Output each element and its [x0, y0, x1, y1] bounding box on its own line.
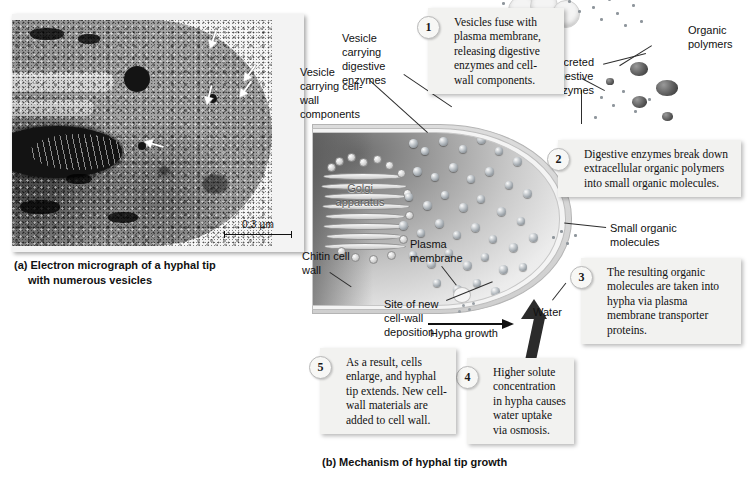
- secreted-enzyme-dot: [648, 98, 651, 101]
- small-organic-molecule: [566, 242, 569, 245]
- step-number-4: 4: [456, 366, 479, 389]
- vesicle: [417, 229, 425, 237]
- dense-clump: [30, 28, 64, 40]
- dense-clump: [108, 212, 138, 223]
- secreted-enzyme-dot: [594, 116, 597, 119]
- panel-a-caption: (a) Electron micrograph of a hyphal tip …: [14, 258, 294, 288]
- vesicle: [413, 167, 422, 176]
- vesicle: [467, 175, 475, 183]
- vesicle: [439, 137, 448, 146]
- callout-step-5: 5 As a result, cells enlarge, and hyphal…: [320, 348, 456, 434]
- secreted-enzyme-dot: [612, 104, 615, 107]
- step-text-4: Higher solute concentration in hypha cau…: [493, 366, 566, 436]
- vesicle: [409, 139, 418, 148]
- cytoplasm: [312, 132, 560, 306]
- step-text-1: Vesicles fuse with plasma membrane, rele…: [454, 16, 541, 86]
- label-plasma-membrane: Plasma membrane: [410, 238, 476, 266]
- vesicle: [485, 167, 494, 176]
- vacuole-striations: [30, 134, 126, 170]
- step-number-5: 5: [309, 356, 332, 379]
- small-organic-molecule: [552, 236, 555, 239]
- dark-organelle: [124, 66, 150, 92]
- step-text-5: As a result, cells enlarge, and hyphal t…: [346, 356, 447, 426]
- label-water: Water: [533, 306, 579, 320]
- dim-vesicle: [158, 166, 170, 176]
- panel-a-caption-line1: (a) Electron micrograph of a hyphal tip: [14, 259, 216, 271]
- panel-b-caption: (b) Mechanism of hyphal tip growth: [322, 456, 622, 468]
- organic-polymer: [630, 62, 648, 76]
- hypha-cell: [312, 124, 570, 312]
- deposition-particle: [468, 308, 471, 311]
- callout-step-1: 1 Vesicles fuse with plasma membrane, re…: [428, 8, 564, 94]
- label-chitin-cell-wall: Chitin cell wall: [302, 250, 364, 278]
- vesicle: [477, 195, 485, 203]
- organic-polymer: [656, 80, 678, 96]
- dim-organelle: [202, 174, 228, 194]
- step-number-2: 2: [547, 148, 570, 171]
- organic-polymer: [632, 96, 647, 108]
- callout-step-2: 2 Digestive enzymes break down extracell…: [558, 140, 741, 197]
- vesicle: [491, 287, 500, 296]
- callout-step-4: 4 Higher solute concentration in hypha c…: [467, 358, 574, 444]
- vesicle: [529, 233, 538, 242]
- deposition-particle: [462, 304, 465, 307]
- vesicle: [481, 253, 489, 261]
- step-number-3: 3: [570, 266, 593, 289]
- vesicle: [505, 181, 513, 189]
- vesicle: [435, 219, 444, 228]
- vesicle: [513, 157, 522, 166]
- secreted-enzyme-dot: [622, 90, 625, 93]
- panel-a-caption-line2: with numerous vesicles: [14, 273, 294, 288]
- vesicle: [441, 191, 449, 199]
- scale-bar: 0.3 µm: [222, 219, 294, 238]
- small-organic-molecule: [560, 230, 563, 233]
- vesicle: [459, 145, 467, 153]
- vesicle: [477, 135, 486, 144]
- micrograph-frame: 0.3 µm: [12, 14, 304, 252]
- micrograph-image: 0.3 µm: [12, 14, 304, 252]
- vesicle: [497, 207, 506, 216]
- deposition-particle: [458, 310, 461, 313]
- dense-clump: [66, 174, 92, 184]
- vesicle: [519, 263, 527, 271]
- vesicle: [433, 279, 441, 287]
- electron-micrograph-panel: 0.3 µm: [12, 14, 304, 252]
- deposition-particle: [472, 302, 475, 305]
- vesicle: [423, 201, 432, 210]
- scale-bar-line: [222, 231, 294, 238]
- dense-clump: [20, 200, 60, 214]
- vesicle: [449, 163, 458, 172]
- step-text-2: Digestive enzymes break down extracellul…: [584, 148, 728, 189]
- vesicle: [459, 203, 468, 212]
- vesicle: [523, 189, 532, 198]
- hyphal-growth-diagram: Vesicle carrying cell-wall components Ve…: [300, 0, 742, 480]
- organic-polymer: [662, 112, 673, 121]
- vesicle: [405, 193, 413, 201]
- vesicle: [471, 223, 480, 232]
- hypha-growth-arrow: [428, 318, 520, 330]
- vesicle: [517, 217, 525, 225]
- scale-bar-label: 0.3 µm: [222, 219, 294, 230]
- vesicle: [509, 243, 518, 252]
- label-small-organic-molecules: Small organic molecules: [610, 222, 706, 250]
- vesicle: [499, 265, 508, 274]
- step-number-1: 1: [417, 16, 440, 39]
- vesicle: [421, 147, 429, 155]
- vesicle: [495, 147, 503, 155]
- label-organic-polymers: Organic polymers: [688, 24, 752, 52]
- small-organic-molecule: [574, 234, 577, 237]
- callout-step-3: 3 The resulting organic molecules are ta…: [581, 258, 741, 344]
- label-vesicle-carrying-digestive: Vesicle carrying digestive enzymes: [342, 32, 404, 87]
- vesicle: [489, 235, 497, 243]
- dense-clump: [78, 34, 100, 44]
- step-text-3: The resulting organic molecules are take…: [607, 266, 719, 336]
- vesicle: [431, 173, 439, 181]
- vesicle: [399, 221, 408, 230]
- secreted-enzyme-dot: [634, 110, 637, 113]
- label-golgi-apparatus: Golgi apparatus: [329, 182, 391, 210]
